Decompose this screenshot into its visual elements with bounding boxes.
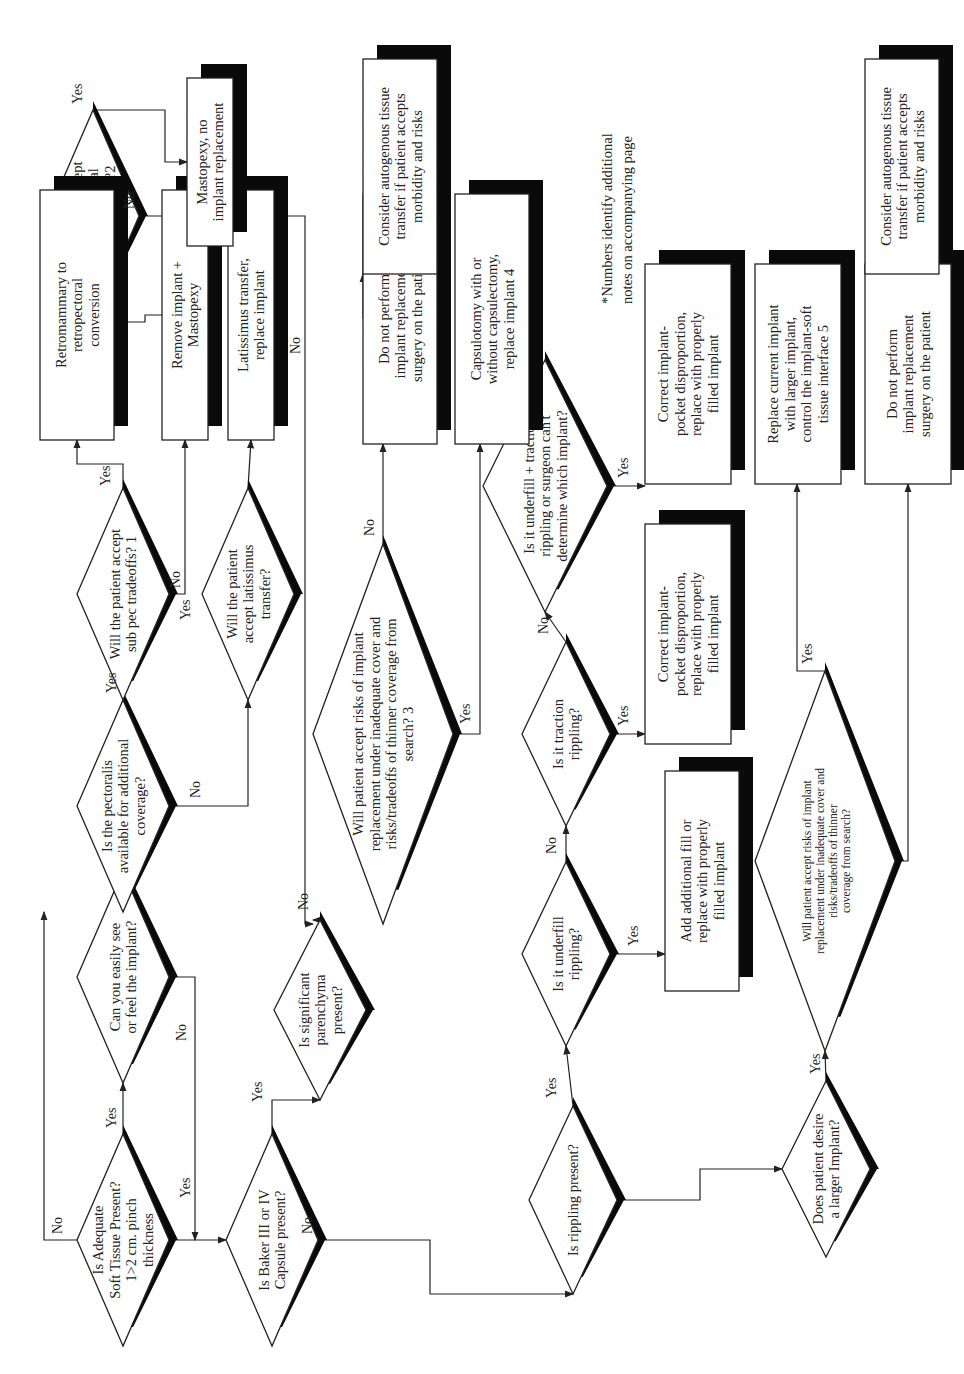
connector: [566, 1046, 573, 1106]
action-text: implant replacement: [210, 103, 226, 222]
decision-d10: Is rippling present?: [529, 1097, 626, 1294]
branch-label: No: [288, 337, 303, 354]
action-text: morbidity and risks: [911, 110, 927, 223]
branch-label: Yes: [250, 1082, 265, 1102]
footnote: notes on accompanying page: [619, 136, 635, 304]
branch-label: Yes: [98, 466, 113, 486]
branch-label: No: [300, 1217, 315, 1234]
decision-text: rippling or surgeon can't: [537, 415, 553, 556]
action-text: filled implant: [711, 842, 727, 921]
action-text: retropectoral: [69, 278, 85, 352]
connector: [272, 1100, 320, 1134]
branch-label: Yes: [808, 1054, 823, 1074]
action-a11: Replace current implantwith larger impla…: [755, 250, 855, 484]
decision-text: Is rippling present?: [565, 1144, 581, 1256]
decision-text: available for additional: [115, 739, 131, 873]
action-text: filled implant: [705, 335, 721, 414]
branch-label: Yes: [800, 644, 815, 664]
decision-text: parenchyma: [312, 974, 328, 1045]
decision-text: Can you easily see: [107, 923, 123, 1031]
decision-text: 1>2 cm. pinch: [123, 1198, 139, 1282]
decision-text: coverage?: [132, 777, 148, 836]
action-text: Correct implant-: [655, 586, 671, 682]
branch-label: No: [536, 617, 551, 634]
decision-text: present?: [329, 986, 345, 1034]
action-text: replace with properly: [688, 311, 704, 436]
flowchart-rotated: Is AdequateSoft Tissue Present?1>2 cm. p…: [0, 0, 964, 1374]
decision-text: Is Adequate: [90, 1206, 106, 1275]
decision-text: Will patient accept risks of implant: [801, 779, 814, 941]
branch-label: Yes: [616, 706, 631, 726]
action-text: replace implant: [251, 270, 267, 360]
branch-label: No: [296, 893, 311, 910]
branch-label: Yes: [70, 84, 85, 104]
action-text: transfer if patient accepts: [392, 93, 408, 239]
decision-d14: Does patient desirea larger Implant?: [782, 1072, 879, 1257]
action-text: replace with properly: [688, 571, 704, 696]
connector: [169, 700, 248, 806]
action-text: Consider autogenous tissue: [878, 87, 894, 246]
connector: [895, 484, 908, 861]
decision-text: Is significant: [296, 972, 312, 1047]
action-text: Consider autogenous tissue: [376, 87, 392, 246]
action-text: control the implant-soft: [798, 306, 814, 443]
action-a9: Correct implant-pocket disproportion,rep…: [645, 510, 745, 744]
branch-label: No: [122, 192, 137, 209]
action-a6: Capsulotomy with orwithout capsulectomy,…: [455, 180, 543, 444]
decision-text: Is it underfill: [550, 916, 566, 992]
decision-d8: Is significantparenchymapresent?: [274, 911, 375, 1100]
decision-d7: Is Baker III or IVCapsule present?: [226, 1125, 327, 1346]
action-text: Mastopexy: [185, 282, 201, 347]
decision-text: Is Baker III or IV: [256, 1189, 272, 1291]
decision-d3: Is the pectoralisavailable for additiona…: [77, 691, 178, 912]
action-text: surgery on the patient: [409, 256, 425, 382]
flowchart-canvas: Is AdequateSoft Tissue Present?1>2 cm. p…: [0, 0, 964, 1374]
action-text: implant replacement: [900, 315, 916, 434]
decision-text: or feel the implant?: [123, 920, 139, 1033]
decision-d4: Will the patient acceptsub pec tradeoffs…: [77, 479, 178, 700]
decision-text: risks/tradeoffs of thinner: [827, 804, 839, 918]
decision-text: Is the pectoralis: [99, 760, 115, 852]
decision-text: rippling?: [566, 928, 582, 980]
connector: [169, 977, 195, 1240]
action-text: transfer if patient accepts: [894, 93, 910, 239]
decision-text: Is it traction: [550, 698, 566, 769]
action-text: Capsulotomy with or: [468, 258, 484, 381]
decision-text: Does patient desire: [810, 1113, 826, 1224]
action-text: replace with properly: [694, 818, 710, 943]
decision-text: thickness: [140, 1213, 156, 1267]
branch-label: No: [50, 1217, 65, 1234]
action-text: conversion: [86, 282, 102, 346]
decision-text: Capsule present?: [272, 1191, 288, 1290]
action-text: surgery on the patient: [917, 311, 933, 437]
action-text: Replace current implant: [765, 304, 781, 443]
action-text: morbidity and risks: [409, 110, 425, 223]
decision-d11: Is it underfillrippling?: [522, 853, 619, 1046]
action-text: Do not perform: [884, 328, 900, 419]
decision-text: risks/tradeoffs of thinner coverage from: [383, 618, 399, 850]
decision-text: replacement under inadequate cover and: [367, 616, 383, 851]
footnote: *Numbers identify additional: [599, 133, 615, 304]
decision-text: rippling?: [566, 708, 582, 760]
decision-text: determine which implant?: [554, 410, 570, 561]
branch-label: No: [362, 519, 377, 536]
branch-label: No: [544, 837, 559, 854]
action-text: Retromammary to: [53, 262, 69, 368]
action-a7: Consider autogenous tissuetransfer if pa…: [363, 45, 451, 274]
action-text: pocket disproportion,: [672, 572, 688, 696]
decision-text: transfer?: [257, 569, 273, 620]
decision-d9: Will patient accept risks of implantrepl…: [313, 535, 462, 924]
action-text: implant replacement: [392, 260, 408, 379]
decision-d1: Is AdequateSoft Tissue Present?1>2 cm. p…: [77, 1125, 178, 1346]
branch-label: Yes: [616, 458, 631, 478]
action-a13: Consider autogenous tissuetransfer if pa…: [865, 45, 953, 274]
action-text: with larger implant,: [782, 317, 798, 432]
branch-label: Yes: [104, 1108, 119, 1128]
action-text: tissue interface 5: [815, 325, 831, 423]
decision-text: replacement under inadequate cover and: [814, 768, 827, 954]
branch-label: Yes: [544, 1078, 559, 1098]
decision-d5: Will the patientaccept latissimustransfe…: [202, 479, 303, 700]
flowchart-nodes: Is AdequateSoft Tissue Present?1>2 cm. p…: [40, 45, 964, 1346]
branch-label: Yes: [626, 926, 641, 946]
decision-text: Will patient accept risks of implant: [350, 632, 366, 836]
